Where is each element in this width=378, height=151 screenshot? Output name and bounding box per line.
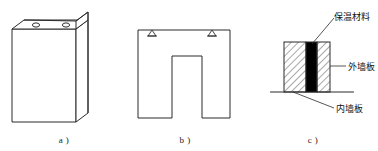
figure-container: a ) b ): [0, 0, 378, 151]
interior-panel-layer: [284, 42, 306, 92]
label-interior-panel: 内墙板: [336, 102, 363, 115]
panel-right-face: [76, 20, 88, 122]
leader-line-interior: [293, 92, 334, 108]
panel-a-caption: a ): [0, 135, 128, 145]
label-insulation: 保温材料: [334, 10, 370, 23]
panel-a-drawing: [0, 0, 128, 151]
panel-front-face: [12, 29, 76, 122]
insulation-layer: [306, 42, 317, 92]
panel-c-caption: c ): [248, 135, 378, 145]
panel-b-drawing: [120, 0, 250, 151]
panel-b: b ): [120, 0, 250, 151]
lifting-hole-icon: [32, 23, 39, 27]
u-shape-outline: [138, 30, 230, 118]
panel-b-caption: b ): [120, 135, 250, 145]
leader-line-insulation: [312, 18, 334, 44]
panel-a: a ): [0, 0, 128, 151]
exterior-panel-layer: [317, 42, 330, 92]
label-exterior-panel: 外墙板: [348, 60, 375, 73]
lifting-hole-icon: [62, 23, 69, 27]
panel-c: 保温材料 外墙板 内墙板 c ): [248, 0, 378, 151]
